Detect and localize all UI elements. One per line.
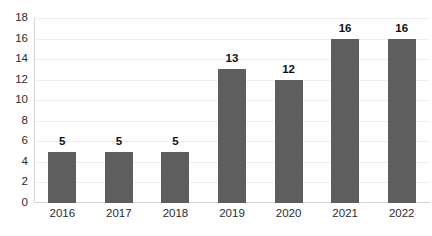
gridline [35, 203, 430, 204]
bar[interactable] [48, 152, 76, 203]
y-axis-tick-labels: 024681012141618 [0, 18, 28, 203]
bar-value-label: 5 [116, 136, 122, 148]
bar-value-label: 16 [395, 23, 408, 35]
bar-series: 55513121616 [34, 18, 430, 203]
y-axis-tick-label: 4 [22, 156, 28, 168]
y-axis-tick-label: 0 [22, 197, 28, 209]
y-axis-tick-label: 8 [22, 115, 28, 127]
x-axis-tick-label: 2022 [389, 208, 415, 220]
bar-group[interactable]: 5 [91, 18, 148, 203]
bar[interactable] [331, 39, 359, 203]
bar-group[interactable]: 12 [260, 18, 317, 203]
bar[interactable] [161, 152, 189, 203]
x-axis-tick-label: 2017 [106, 208, 132, 220]
bar-chart: 024681012141618 55513121616 201620172018… [0, 0, 432, 236]
bar-value-label: 16 [339, 23, 352, 35]
y-axis-tick-label: 16 [15, 33, 28, 45]
x-axis-tick-label: 2018 [163, 208, 189, 220]
x-axis-tick-labels: 2016201720182019202020212022 [34, 208, 430, 228]
x-axis-tick-label: 2021 [332, 208, 358, 220]
y-axis-tick-label: 12 [15, 74, 28, 86]
bar-group[interactable]: 5 [147, 18, 204, 203]
bar-value-label: 5 [59, 136, 65, 148]
y-axis-tick-label: 2 [22, 177, 28, 189]
bar[interactable] [275, 80, 303, 203]
y-axis-tick-label: 6 [22, 136, 28, 148]
bar-value-label: 5 [172, 136, 178, 148]
x-axis-tick-label: 2016 [49, 208, 75, 220]
y-axis-tick-label: 14 [15, 53, 28, 65]
bar[interactable] [388, 39, 416, 203]
y-axis-tick-label: 10 [15, 94, 28, 106]
bar-group[interactable]: 16 [373, 18, 430, 203]
bar-value-label: 12 [282, 64, 295, 76]
bar-value-label: 13 [226, 53, 239, 65]
bar-group[interactable]: 13 [204, 18, 261, 203]
bar[interactable] [218, 69, 246, 203]
bar-group[interactable]: 5 [34, 18, 91, 203]
x-axis-tick-label: 2020 [276, 208, 302, 220]
bar[interactable] [105, 152, 133, 203]
x-axis-tick-label: 2019 [219, 208, 245, 220]
bar-group[interactable]: 16 [317, 18, 374, 203]
y-axis-tick-label: 18 [15, 12, 28, 24]
